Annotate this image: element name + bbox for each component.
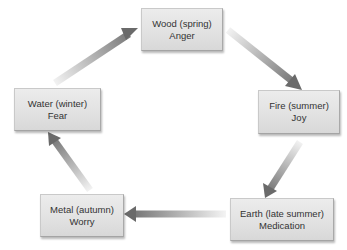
node-water: Water (winter) Fear	[14, 88, 101, 131]
node-earth: Earth (late summer) Medication	[230, 198, 334, 241]
five-elements-diagram: Wood (spring) Anger Fire (summer) Joy Ea…	[0, 0, 347, 250]
node-earth-emotion: Medication	[259, 220, 305, 232]
node-wood: Wood (spring) Anger	[141, 8, 223, 51]
node-metal: Metal (autumn) Worry	[40, 194, 124, 237]
node-metal-emotion: Worry	[69, 216, 94, 228]
node-fire-element: Fire (summer)	[269, 100, 329, 112]
node-earth-element: Earth (late summer)	[240, 208, 324, 220]
arrow-fire-to-earth	[263, 142, 300, 198]
node-water-element: Water (winter)	[28, 98, 87, 110]
arrow-earth-to-metal	[124, 206, 226, 222]
node-fire-emotion: Joy	[292, 112, 307, 124]
node-wood-element: Wood (spring)	[152, 18, 212, 30]
node-metal-element: Metal (autumn)	[50, 204, 114, 216]
arrow-water-to-wood	[55, 28, 138, 83]
node-fire: Fire (summer) Joy	[258, 90, 340, 134]
arrow-wood-to-fire	[228, 30, 302, 90]
arrow-metal-to-water	[48, 132, 90, 190]
node-water-emotion: Fear	[48, 110, 68, 122]
node-wood-emotion: Anger	[169, 30, 194, 42]
